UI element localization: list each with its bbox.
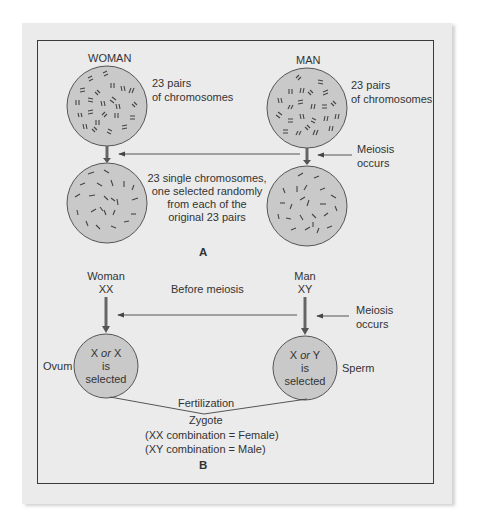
fertilization-label: Fertilization [178,397,234,410]
meiosis-label-line1: Meiosis [357,143,394,156]
female-combination: (XX combination = Female) [145,429,279,442]
sperm-label: Sperm [342,362,374,375]
man-pairs-cell-icon [267,68,347,148]
woman-single-cell-icon [67,163,147,243]
woman-pairs-line2: of chromosomes [152,91,233,104]
male-combination: (XY combination = Male) [145,443,266,456]
woman-pairs-line1: 23 pairs [152,77,191,90]
meiosis-label-line2: occurs [357,157,389,170]
ovum-label: Ovum [43,360,72,373]
panel-b-label: B [199,459,207,472]
man-xy-label: Man XY [285,270,325,296]
woman-label: WOMAN [88,52,131,65]
woman-xx-label: Woman XX [86,270,126,296]
single-chromosomes-note: 23 single chromosomes, one selected rand… [142,172,272,224]
ovum-circle-text: X or X is selected [76,347,136,386]
man-pairs-line2: of chromosomes [351,93,432,106]
before-meiosis-label: Before meiosis [171,283,244,296]
panel-a-label: A [199,246,207,259]
meiosis-b-line1: Meiosis [356,304,393,317]
man-label: MAN [296,54,320,67]
man-pairs-line1: 23 pairs [351,79,390,92]
sperm-circle-text: X or Y is selected [275,349,335,388]
meiosis-b-line2: occurs [356,318,388,331]
zygote-label: Zygote [189,414,223,427]
woman-pairs-cell-icon [67,66,147,146]
